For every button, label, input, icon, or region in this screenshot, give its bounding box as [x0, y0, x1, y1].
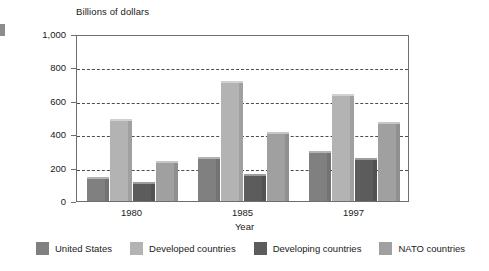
legend-swatch	[36, 242, 49, 255]
bar-1980-nato-countries	[156, 161, 178, 201]
bar-group-1985	[198, 36, 289, 201]
bar-side-shade	[350, 96, 354, 201]
bar-top-highlight	[244, 174, 266, 176]
bar-side-shade	[262, 176, 266, 201]
bar-side-shade	[105, 179, 109, 201]
x-axis-title: Year	[0, 221, 489, 232]
y-tick-mark	[71, 102, 76, 103]
x-tick-label-1997: 1997	[324, 207, 384, 218]
bar-side-shade	[174, 163, 178, 201]
legend-label: Developed countries	[149, 243, 236, 254]
y-tick-label: 1,000	[0, 29, 66, 40]
legend-label: NATO countries	[398, 243, 465, 254]
bar-side-shade	[216, 159, 220, 201]
legend-item-developed-countries: Developed countries	[130, 242, 236, 255]
bar-1997-nato-countries	[378, 122, 400, 201]
bar-1985-developing-countries	[244, 174, 266, 201]
bar-top-highlight	[156, 161, 178, 163]
bar-side-shade	[239, 83, 243, 201]
legend-item-developing-countries: Developing countries	[254, 242, 362, 255]
bar-top-highlight	[198, 157, 220, 159]
bar-1980-united-states	[87, 177, 109, 201]
bar-side-shade	[285, 134, 289, 201]
bar-1997-developing-countries	[355, 158, 377, 201]
bar-top-highlight	[309, 151, 331, 153]
bar-top-highlight	[378, 122, 400, 124]
bar-top-highlight	[267, 132, 289, 134]
y-tick-label: 400	[0, 129, 66, 140]
y-tick-mark	[71, 68, 76, 69]
y-tick-label: 800	[0, 62, 66, 73]
bar-top-highlight	[221, 81, 243, 83]
bar-side-shade	[151, 184, 155, 201]
bar-1985-nato-countries	[267, 132, 289, 201]
legend-swatch	[254, 242, 267, 255]
y-axis-title: Billions of dollars	[76, 6, 149, 17]
y-tick-label: 0	[0, 196, 66, 207]
legend-item-united-states: United States	[36, 242, 112, 255]
bar-side-shade	[396, 124, 400, 201]
bar-top-highlight	[87, 177, 109, 179]
legend-swatch	[130, 242, 143, 255]
legend-label: United States	[55, 243, 112, 254]
x-tick-label-1985: 1985	[213, 207, 273, 218]
y-tick-mark	[71, 169, 76, 170]
bar-1980-developed-countries	[110, 119, 132, 201]
y-tick-mark	[71, 202, 76, 203]
legend-label: Developing countries	[273, 243, 362, 254]
legend-item-nato-countries: NATO countries	[379, 242, 465, 255]
bar-group-1980	[87, 36, 178, 201]
bar-1997-developed-countries	[332, 94, 354, 201]
bars-layer	[77, 36, 408, 201]
bar-top-highlight	[332, 94, 354, 96]
bar-chart-figure: Billions of dollars 02004006008001,000 1…	[0, 0, 489, 271]
bar-top-highlight	[110, 119, 132, 121]
bar-group-1997	[309, 36, 400, 201]
bar-1980-developing-countries	[133, 182, 155, 201]
bar-side-shade	[128, 121, 132, 201]
bar-1997-united-states	[309, 151, 331, 201]
bar-1985-developed-countries	[221, 81, 243, 201]
bar-top-highlight	[133, 182, 155, 184]
bar-side-shade	[373, 160, 377, 201]
bar-side-shade	[327, 153, 331, 201]
chart-legend: United StatesDeveloped countriesDevelopi…	[36, 242, 483, 255]
bar-1985-united-states	[198, 157, 220, 201]
y-tick-mark	[71, 135, 76, 136]
bar-top-highlight	[355, 158, 377, 160]
y-tick-label: 600	[0, 96, 66, 107]
legend-swatch	[379, 242, 392, 255]
plot-area	[76, 35, 409, 202]
y-tick-label: 200	[0, 163, 66, 174]
x-tick-label-1980: 1980	[102, 207, 162, 218]
y-tick-mark	[71, 35, 76, 36]
